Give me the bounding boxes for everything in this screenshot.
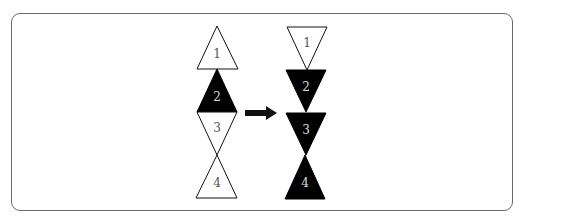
before-triangle-3: 3	[197, 112, 237, 155]
right-arrow-icon	[245, 106, 277, 120]
after-label-2: 2	[302, 80, 310, 94]
after-label-4: 4	[301, 176, 309, 190]
after-label-3: 3	[302, 123, 310, 137]
before-triangle-1: 1	[197, 26, 238, 69]
after-triangle-3: 3	[286, 113, 326, 155]
before-label-1: 1	[213, 47, 221, 61]
triangle-diagram: 1 2 3 4 1 2 3	[0, 0, 573, 222]
before-triangle-2: 2	[197, 69, 237, 112]
after-stack: 1 2 3 4	[285, 27, 327, 199]
before-label-2: 2	[213, 90, 221, 104]
after-triangle-2: 2	[286, 70, 326, 112]
after-triangle-4: 4	[285, 155, 325, 199]
before-triangle-4: 4	[196, 155, 237, 198]
after-triangle-1: 1	[287, 27, 327, 70]
before-stack: 1 2 3 4	[196, 26, 238, 198]
before-label-4: 4	[213, 176, 221, 190]
before-label-3: 3	[213, 121, 221, 135]
after-label-1: 1	[303, 36, 311, 50]
